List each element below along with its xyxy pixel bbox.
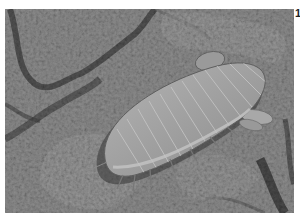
photo-canvas [5, 9, 294, 213]
figure-number: 1 [295, 8, 300, 19]
isopod-photo [5, 9, 294, 213]
